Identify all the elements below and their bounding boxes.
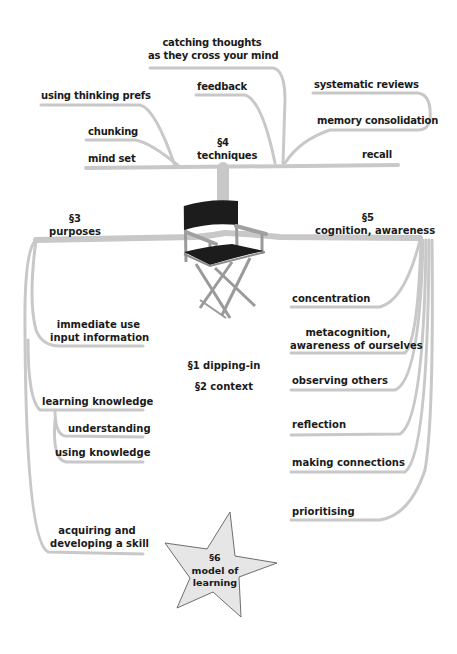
node-reflection: reflection bbox=[292, 418, 346, 431]
cognition-title: cognition, awareness bbox=[315, 224, 421, 237]
techniques-title: techniques bbox=[197, 149, 249, 162]
center-label-dipping-in: §1 dipping-in bbox=[180, 359, 268, 372]
node-text: metacognition, bbox=[290, 326, 406, 339]
node-immediate-use: immediate use input information bbox=[50, 318, 140, 344]
node-text: developing a skill bbox=[50, 537, 144, 550]
node-acquiring-skill: acquiring and developing a skill bbox=[50, 524, 144, 550]
purposes-section-number: §3 bbox=[48, 212, 102, 225]
node-observing-others: observing others bbox=[292, 374, 388, 387]
cognition-section-label: §5 cognition, awareness bbox=[315, 211, 421, 237]
node-mind-set: mind set bbox=[88, 152, 136, 165]
node-concentration: concentration bbox=[292, 292, 370, 305]
cognition-section-number: §5 bbox=[315, 211, 421, 224]
node-systematic-reviews: systematic reviews bbox=[314, 78, 419, 91]
model-of-learning-label: §6 model of learning bbox=[190, 552, 240, 590]
purposes-title: purposes bbox=[48, 225, 102, 238]
node-catching-thoughts: catching thoughts as they cross your min… bbox=[148, 36, 276, 62]
director-chair-icon bbox=[184, 200, 266, 318]
model-line1: model of bbox=[190, 565, 240, 578]
purposes-section-label: §3 purposes bbox=[48, 212, 102, 238]
node-making-connections: making connections bbox=[292, 456, 405, 469]
node-prioritising: prioritising bbox=[292, 505, 355, 518]
node-text: immediate use bbox=[50, 318, 140, 331]
center-label-context: §2 context bbox=[180, 380, 268, 393]
node-text: awareness of ourselves bbox=[290, 339, 406, 352]
branch-observing-others bbox=[291, 240, 423, 390]
node-using-thinking-prefs: using thinking prefs bbox=[41, 89, 151, 102]
node-metacognition: metacognition, awareness of ourselves bbox=[290, 326, 406, 352]
node-text: acquiring and bbox=[50, 524, 144, 537]
branch-reviews-consolidation bbox=[285, 93, 430, 163]
techniques-section-number: §4 bbox=[197, 136, 249, 149]
node-learning-knowledge: learning knowledge bbox=[42, 395, 153, 408]
node-recall: recall bbox=[362, 148, 392, 161]
node-text: input information bbox=[50, 331, 140, 344]
model-section-number: §6 bbox=[190, 552, 240, 565]
node-text: as they cross your mind bbox=[148, 49, 276, 62]
node-feedback: feedback bbox=[197, 80, 247, 93]
node-memory-consolidation: memory consolidation bbox=[317, 114, 438, 127]
node-using-knowledge: using knowledge bbox=[55, 446, 150, 459]
techniques-section-label: §4 techniques bbox=[197, 136, 249, 162]
model-line2: learning bbox=[190, 577, 240, 590]
techniques-main-branch bbox=[86, 165, 398, 168]
node-text: catching thoughts bbox=[148, 36, 276, 49]
node-understanding: understanding bbox=[68, 422, 151, 435]
node-chunking: chunking bbox=[88, 125, 138, 138]
mind-map: §4 techniques catching thoughts as they … bbox=[0, 0, 457, 654]
